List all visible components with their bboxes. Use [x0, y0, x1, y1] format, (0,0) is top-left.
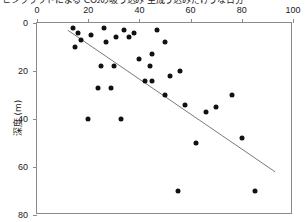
y-axis-tick — [33, 119, 37, 120]
scatter-point — [111, 64, 116, 69]
scatter-point — [127, 35, 132, 40]
scatter-point — [114, 35, 119, 40]
scatter-point — [86, 117, 91, 122]
scatter-point — [239, 136, 244, 141]
x-axis-tick — [191, 19, 192, 23]
x-axis-tick — [88, 19, 89, 23]
scatter-point — [150, 78, 155, 83]
y-axis-tick — [33, 167, 37, 168]
scatter-point — [155, 28, 160, 33]
y-axis-tick-label: 40 — [18, 114, 28, 124]
scatter-point — [119, 117, 124, 122]
y-axis-tick — [33, 71, 37, 72]
scatter-point — [178, 69, 183, 74]
scatter-point — [168, 73, 173, 78]
scatter-point — [163, 40, 168, 45]
x-axis-tick-label: 40 — [134, 5, 144, 15]
x-axis-tick-label: 60 — [186, 5, 196, 15]
x-axis-tick-label: 100 — [285, 5, 300, 15]
scatter-point — [163, 93, 168, 98]
regression-line — [37, 23, 293, 215]
scatter-point — [96, 85, 101, 90]
y-axis-tick — [33, 215, 37, 216]
scatter-point — [78, 37, 83, 42]
scatter-point — [104, 40, 109, 45]
scatter-point — [193, 141, 198, 146]
scatter-point — [142, 78, 147, 83]
x-axis-tick — [37, 19, 38, 23]
scatter-point — [175, 189, 180, 194]
x-axis-tick — [139, 19, 140, 23]
scatter-point — [150, 52, 155, 57]
x-axis-tick — [293, 19, 294, 23]
scatter-point — [70, 25, 75, 30]
scatter-point — [73, 45, 78, 50]
chart-title: ヒシクラウドによる CO₂の吸う込み 生成う込みだけうな日分 — [2, 0, 308, 6]
y-axis-tick-label: 80 — [18, 210, 28, 220]
plot-area: 深度 (m) 020406080100020406080 — [36, 22, 292, 214]
scatter-point — [101, 25, 106, 30]
scatter-point — [214, 105, 219, 110]
chart-root: ヒシクラウドによる CO₂の吸う込み 生成う込みだけうな日分 深度 (m) 02… — [0, 0, 308, 222]
scatter-point — [137, 57, 142, 62]
y-axis-tick-label: 20 — [18, 66, 28, 76]
scatter-point — [229, 93, 234, 98]
scatter-point — [122, 28, 127, 33]
y-axis-tick-label: 60 — [18, 162, 28, 172]
scatter-point — [99, 64, 104, 69]
scatter-point — [147, 64, 152, 69]
scatter-point — [88, 33, 93, 38]
x-axis-tick-label: 20 — [83, 5, 93, 15]
scatter-point — [109, 85, 114, 90]
x-axis-tick — [242, 19, 243, 23]
scatter-point — [203, 109, 208, 114]
y-axis-tick-label: 0 — [23, 18, 28, 28]
scatter-point — [132, 30, 137, 35]
y-axis-tick — [33, 23, 37, 24]
x-axis-tick-label: 0 — [34, 5, 39, 15]
scatter-point — [183, 102, 188, 107]
x-axis-tick-label: 80 — [237, 5, 247, 15]
scatter-point — [75, 30, 80, 35]
scatter-point — [252, 189, 257, 194]
